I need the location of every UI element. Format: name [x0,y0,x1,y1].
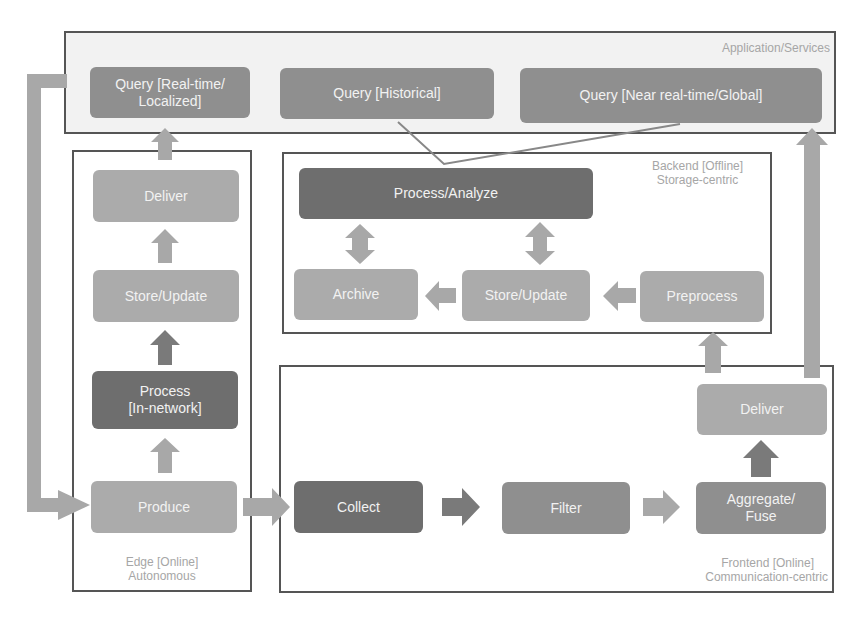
bidirectional-arrow-icon [345,224,375,264]
up-arrow-icon [151,128,179,160]
left-arrow-icon [425,281,456,311]
arrows-layer [0,0,862,620]
up-arrow-icon [796,128,828,378]
right-arrow-icon [243,488,290,526]
bidirectional-arrow-icon [525,222,555,265]
right-arrow-icon [643,490,680,524]
left-arrow-icon [603,281,636,311]
feedback-loop-arrow [27,74,90,520]
up-arrow-icon [698,332,728,373]
up-arrow-icon [743,440,779,477]
up-arrow-icon [150,438,180,473]
right-arrow-icon [442,488,480,526]
query-connector-lines [398,122,680,164]
up-arrow-icon [150,330,180,365]
up-arrow-icon [151,229,179,263]
